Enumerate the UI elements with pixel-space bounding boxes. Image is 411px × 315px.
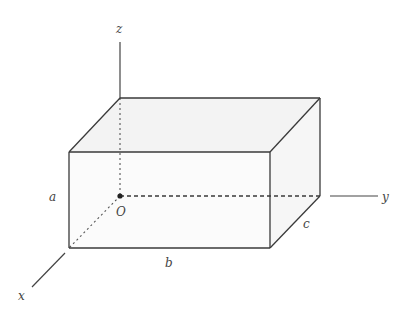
- length-label-b: b: [165, 256, 173, 270]
- front-face: [69, 152, 270, 248]
- x-axis-label: x: [18, 289, 25, 303]
- x-axis: [32, 253, 65, 287]
- y-axis-label: y: [381, 190, 389, 204]
- height-label-a: a: [49, 190, 56, 204]
- depth-label-c: c: [303, 217, 310, 231]
- box-faces: [69, 98, 320, 248]
- origin-point: [117, 193, 122, 198]
- origin-label: O: [116, 205, 126, 219]
- z-axis-label: z: [115, 22, 123, 36]
- cuboid-diagram: z y x O a b c: [0, 0, 411, 315]
